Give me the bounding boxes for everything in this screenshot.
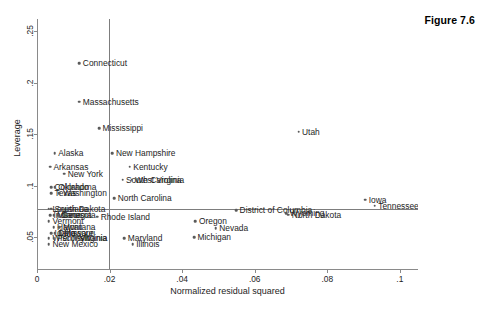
scatter-point [53, 152, 56, 155]
figure-caption: Figure 7.6 [424, 14, 475, 26]
x-axis-title: Normalized residual squared [37, 286, 418, 296]
x-tick-mark [400, 270, 401, 273]
x-tick-mark [37, 270, 38, 273]
scatter-point-label: Michigan [198, 233, 232, 242]
scatter-point-label: Mississippi [102, 124, 143, 133]
scatter-point [194, 220, 197, 223]
scatter-point [297, 130, 300, 133]
scatter-point [48, 243, 51, 246]
scatter-point [98, 127, 101, 130]
x-tick-mark [327, 270, 328, 273]
scatter-point [58, 192, 61, 195]
scatter-point-label: West Virginia [135, 175, 184, 184]
scatter-point-label: North Dakota [292, 210, 341, 219]
scatter-point-label: New Hampshire [116, 148, 176, 157]
scatter-point-label: Utah [302, 127, 320, 136]
scatter-plot-canvas: ConnecticutMassachusettsMississippiUtahA… [38, 19, 418, 269]
vertical-reference-line [109, 19, 110, 269]
y-tick-label: .15 [25, 123, 35, 145]
scatter-point [78, 62, 81, 65]
plot-area: ConnecticutMassachusettsMississippiUtahA… [37, 19, 418, 270]
scatter-point [78, 101, 81, 104]
scatter-point [63, 173, 66, 176]
x-tick-mark [255, 270, 256, 273]
scatter-point [373, 204, 376, 207]
y-tick-label: .1 [25, 175, 35, 197]
scatter-point-label: Kentucky [133, 162, 167, 171]
scatter-point-label: New York [68, 169, 103, 178]
scatter-point [287, 213, 290, 216]
y-tick-label: .2 [25, 72, 35, 94]
scatter-point [193, 236, 196, 239]
scatter-point-label: Connecticut [83, 59, 127, 68]
scatter-point-label: Massachusetts [83, 97, 139, 106]
scatter-point [96, 215, 99, 218]
scatter-point-label: Washington [63, 189, 107, 198]
x-tick-label: .08 [321, 274, 333, 284]
x-tick-label: .1 [396, 274, 403, 284]
x-tick-mark [182, 270, 183, 273]
scatter-point-label: New Mexico [52, 240, 98, 249]
x-tick-mark [110, 270, 111, 273]
scatter-point [130, 178, 133, 181]
scatter-point [235, 209, 238, 212]
scatter-point [113, 197, 116, 200]
scatter-point [48, 220, 51, 223]
scatter-point [364, 199, 367, 202]
x-tick-label: .06 [249, 274, 261, 284]
scatter-point-label: Tennessee [378, 201, 418, 210]
y-tick-label: .05 [25, 226, 35, 248]
scatter-point-label: Alaska [58, 148, 83, 157]
scatter-point [49, 214, 52, 217]
x-tick-label: 0 [35, 274, 40, 284]
scatter-point [121, 178, 124, 181]
scatter-point [50, 186, 53, 189]
scatter-point [123, 237, 126, 240]
scatter-point [129, 165, 132, 168]
x-tick-label: .02 [104, 274, 116, 284]
y-axis-title: Leverage [12, 93, 22, 183]
scatter-point-label: Rhode Island [101, 212, 150, 221]
scatter-point [50, 192, 53, 195]
scatter-point [48, 237, 51, 240]
scatter-point-label: Illinois [136, 240, 159, 249]
figure-container: Figure 7.6 Leverage Normalized residual … [0, 0, 485, 325]
scatter-point [48, 207, 51, 210]
scatter-point [131, 243, 134, 246]
scatter-point [215, 227, 218, 230]
scatter-point-label: North Carolina [118, 194, 172, 203]
scatter-point [49, 165, 52, 168]
y-tick-label: .25 [25, 20, 35, 42]
x-tick-label: .04 [176, 274, 188, 284]
scatter-point [111, 152, 114, 155]
